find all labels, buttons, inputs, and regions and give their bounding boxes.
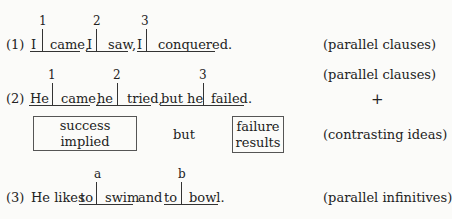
underline — [137, 51, 215, 52]
underline — [29, 105, 90, 106]
example-number: (3) — [6, 191, 24, 204]
subject: he — [97, 92, 113, 105]
divider-line — [96, 29, 97, 51]
divider-line — [203, 83, 204, 105]
box-text-line2: results — [235, 135, 280, 151]
example-number: (1) — [6, 38, 24, 51]
example-label: (parallel clauses) — [323, 38, 436, 51]
predicate: saw, — [108, 38, 136, 51]
success-implied-box: success implied — [33, 116, 137, 151]
underline — [96, 105, 151, 106]
marker-b: b — [178, 168, 186, 180]
marker-3: 3 — [199, 69, 207, 81]
marker-2: 2 — [93, 15, 101, 27]
subject: to — [164, 191, 177, 204]
contrast-connector: but — [173, 128, 195, 141]
divider-line — [96, 182, 97, 204]
predicate: swim — [105, 191, 139, 204]
subject: I — [31, 38, 36, 51]
subject: He — [30, 92, 49, 105]
divider-line — [181, 182, 182, 204]
subject: I — [137, 38, 142, 51]
underline — [30, 51, 80, 52]
subject: but he — [161, 92, 203, 105]
prefix-text: He likes — [31, 191, 85, 204]
predicate: tried, — [127, 92, 163, 105]
failure-results-box: failure results — [232, 116, 284, 153]
connector: and — [138, 191, 162, 204]
underline — [164, 204, 218, 205]
marker-2: 2 — [113, 69, 121, 81]
divider-line — [146, 29, 147, 51]
marker-1: 1 — [48, 69, 56, 81]
contrast-label: (contrasting ideas) — [323, 128, 447, 141]
subject: to — [80, 191, 93, 204]
predicate: came, — [50, 38, 89, 51]
predicate: came, — [61, 92, 100, 105]
divider-line — [52, 83, 53, 105]
divider-line — [42, 29, 43, 51]
subject: I — [87, 38, 92, 51]
example-number: (2) — [6, 92, 24, 105]
box-text: success implied — [34, 118, 136, 149]
underline — [86, 51, 128, 52]
marker-1: 1 — [39, 15, 47, 27]
box-text-line1: failure — [236, 119, 279, 135]
marker-3: 3 — [141, 15, 149, 27]
example-label: (parallel clauses) — [323, 68, 436, 81]
divider-line — [117, 83, 118, 105]
underline — [160, 105, 244, 106]
marker-a: a — [94, 168, 101, 180]
example-label: (parallel infinitives) — [323, 191, 452, 204]
plus-sign: + — [371, 92, 384, 107]
predicate: bowl. — [189, 191, 225, 204]
predicate: failed. — [211, 92, 252, 105]
underline — [79, 204, 133, 205]
predicate: conquered. — [158, 38, 232, 51]
